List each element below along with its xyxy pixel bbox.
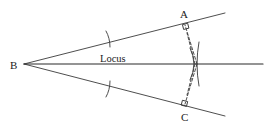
perpendicular-to-C <box>185 64 197 104</box>
perpendicular-to-A <box>185 25 197 64</box>
label-C: C <box>181 111 188 123</box>
construction-arc-upper <box>106 31 110 47</box>
right-angle-mark-C <box>182 100 188 106</box>
perpendicular-to-A-2 <box>187 33 195 64</box>
locus-bisector-diagram: A B C Locus <box>0 0 275 139</box>
right-angle-mark-A <box>183 23 189 29</box>
label-locus: Locus <box>100 53 126 64</box>
label-B: B <box>10 59 17 71</box>
construction-arc-lower <box>106 81 110 97</box>
label-A: A <box>180 8 188 20</box>
perpendicular-to-C-2 <box>187 64 195 95</box>
